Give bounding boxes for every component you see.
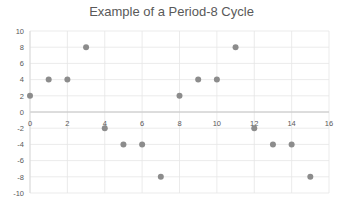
- data-point: [214, 77, 220, 83]
- data-point: [27, 93, 33, 99]
- x-tick-label: 10: [213, 119, 221, 128]
- data-point: [177, 93, 183, 99]
- scatter-plot: 1086420-2-4-6-8-10 0246810121416: [0, 0, 343, 211]
- data-point: [102, 125, 108, 131]
- data-point: [139, 141, 145, 147]
- y-tick-label: 2: [20, 92, 24, 101]
- data-point: [83, 44, 89, 50]
- data-point: [233, 44, 239, 50]
- x-tick-label: 16: [325, 119, 333, 128]
- data-point: [307, 174, 313, 180]
- x-tick-label: 14: [287, 119, 295, 128]
- y-tick-label: 4: [20, 75, 24, 84]
- y-tick-label: -6: [17, 156, 24, 165]
- y-tick-label: -4: [17, 140, 24, 149]
- data-point: [270, 141, 276, 147]
- y-tick-label: -10: [13, 189, 24, 198]
- y-tick-label: 8: [20, 43, 24, 52]
- x-tick-label: 2: [65, 119, 69, 128]
- x-axis-ticks: 0246810121416: [28, 119, 333, 128]
- data-point: [289, 141, 295, 147]
- y-tick-label: 0: [20, 108, 24, 117]
- y-tick-label: 10: [16, 27, 24, 36]
- y-axis-ticks: 1086420-2-4-6-8-10: [13, 27, 24, 198]
- data-point: [158, 174, 164, 180]
- x-tick-label: 8: [177, 119, 181, 128]
- y-tick-label: -2: [17, 124, 24, 133]
- x-tick-label: 0: [28, 119, 32, 128]
- data-point: [46, 77, 52, 83]
- y-tick-label: -8: [17, 173, 24, 182]
- x-tick-label: 6: [140, 119, 144, 128]
- data-point: [64, 77, 70, 83]
- data-point: [195, 77, 201, 83]
- data-point: [120, 141, 126, 147]
- y-tick-label: 6: [20, 59, 24, 68]
- data-point: [251, 125, 257, 131]
